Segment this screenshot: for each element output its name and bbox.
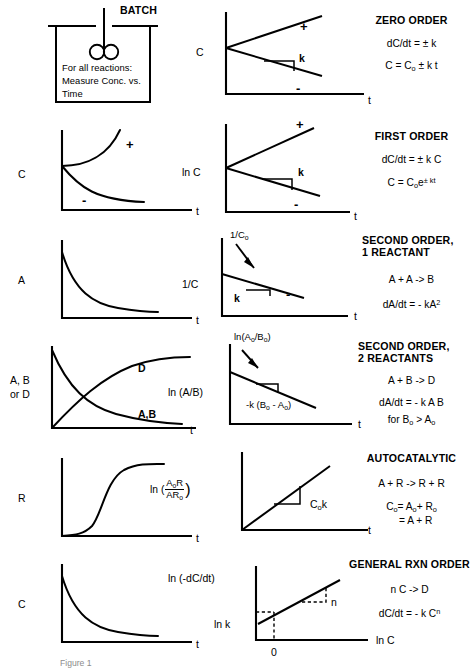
equation-2: dA/dt = - kA2 [352, 298, 471, 310]
reactor-instructions: For all reactions: Measure Conc. vs. Tim… [62, 62, 154, 101]
minus-sign-label: - [296, 82, 300, 95]
equation-3: for Bo > Ao [352, 414, 471, 427]
axis-label-x: t [354, 210, 357, 222]
equation-2: dA/dt = - k A B [352, 397, 471, 408]
slope-label-k: k [299, 52, 305, 64]
instruction-line-1: For all reactions: [62, 62, 154, 75]
axis-label-y-line-2: or D [10, 388, 30, 402]
equation-2: C = Co ± k t [352, 60, 471, 73]
axis-label-y-numerator: AoR [165, 478, 184, 489]
slope-label: -k (Bo - Ao) [246, 400, 291, 412]
text-second-order-1: SECOND ORDER, 1 REACTANT A + A -> B dA/d… [352, 234, 471, 310]
intercept-label: 1/Co [230, 230, 249, 242]
order-title: ZERO ORDER [352, 14, 471, 26]
minus-sign-label: - [82, 194, 86, 207]
kinetics-figure: BATCH For all reactions: Measure Conc. v… [0, 0, 471, 669]
equation-1: dC/dt = ± k [352, 38, 471, 49]
plus-sign-label: + [126, 138, 134, 151]
slope-label-k: k [298, 166, 304, 178]
row-second-order-1: A t 1/C 1/Co k - t SECOND ORDER, 1 REAC [0, 234, 471, 340]
axis-label-y: C [18, 598, 26, 610]
equation-2: Co= Ao+ Ro [352, 501, 471, 514]
slope-label-k: k [234, 292, 240, 304]
text-general-order: GENERAL RXN ORDER n C -> D dC/dt = - k C… [348, 558, 471, 619]
intercept-label: ln(Ao/Bo) [234, 332, 271, 344]
equation-2: C = Coe± kt [352, 176, 471, 190]
curve-label-d: D [138, 362, 146, 374]
plus-sign-label: + [296, 118, 304, 131]
order-title-line-2: 2 REACTANTS [352, 352, 471, 364]
plot-second-order-1-linear: 1/C 1/Co k - t [182, 232, 372, 336]
axis-label-x: ln C [376, 634, 395, 646]
batch-reactor-diagram: BATCH For all reactions: Measure Conc. v… [38, 6, 168, 108]
plus-sign-label: + [300, 20, 308, 33]
axis-label-y: ln (-dC/dt) [168, 572, 215, 584]
equation-1: A + A -> B [352, 274, 471, 285]
order-title-line-1: SECOND ORDER, [352, 340, 471, 352]
minus-sign-label: - [294, 198, 298, 211]
instruction-line-2: Measure Conc. vs. [62, 75, 154, 88]
text-zero-order: ZERO ORDER dC/dt = ± k C = Co ± k t [352, 14, 471, 73]
equation-1: dC/dt = ± k C [352, 154, 471, 165]
equation-3: = A + R [352, 515, 471, 526]
text-autocatalytic: AUTOCATALYTIC A + R -> R + R Co= Ao+ Ro … [352, 452, 471, 526]
axis-label-y: ln ( AoR ARo ) [150, 478, 190, 502]
axis-label-y: R [18, 492, 26, 504]
row-general-order: C t ln (-dC/dt) ln k 0 n ln C GENERAL RX… [0, 556, 471, 669]
text-first-order: FIRST ORDER dC/dt = ± k C C = Coe± kt [352, 130, 471, 190]
axis-label-y-line-1: A, B [10, 374, 30, 388]
axis-label-y-denominator: ARo [165, 489, 184, 501]
order-title: AUTOCATALYTIC [352, 452, 471, 464]
axis-label-x: t [368, 94, 371, 106]
origin-label: 0 [271, 646, 277, 658]
axis-label-y: ln (A/B) [168, 386, 203, 398]
row-second-order-2: A, B or D D A,B t ln (A/B) ln(Ao/Bo) [0, 340, 471, 450]
axis-label-x: t [354, 310, 357, 322]
intercept-label: ln k [214, 618, 230, 630]
equation-1: n C -> D [348, 584, 471, 595]
order-title: GENERAL RXN ORDER [348, 558, 471, 570]
batch-label: BATCH [120, 4, 157, 16]
axis-label-y: 1/C [182, 278, 198, 290]
plot-first-order-linear: ln C + - k t [182, 122, 378, 226]
axis-label-y: A [18, 274, 25, 286]
order-title-line-1: SECOND ORDER, [352, 234, 471, 246]
slope-label-n: n [331, 596, 337, 608]
instruction-line-3: Time [62, 88, 154, 101]
axis-label-y: C [196, 46, 204, 58]
equation-1: A + R -> R + R [352, 478, 471, 489]
figure-caption: Figure 1 [60, 658, 92, 668]
equation-2: dC/dt = - k Cn [348, 607, 471, 619]
minus-sign-label: - [286, 288, 290, 301]
curve-label-ab: A,B [138, 408, 156, 420]
axis-label-y-prefix: ln ( [150, 484, 164, 496]
order-title: FIRST ORDER [352, 130, 471, 142]
row-autocatalytic: R t ln ( AoR ARo ) [0, 450, 471, 556]
order-title-line-2: 1 REACTANT [352, 246, 471, 258]
axis-label-y-suffix: ) [185, 482, 190, 498]
row-zero-order: BATCH For all reactions: Measure Conc. v… [0, 0, 471, 122]
axis-label-y: ln C [182, 166, 201, 178]
row-first-order: C + - t ln C + - k t FIRST ORDER [0, 122, 471, 234]
axis-label-y: A, B or D [10, 374, 30, 401]
text-second-order-2: SECOND ORDER, 2 REACTANTS A + B -> D dA/… [352, 340, 471, 427]
slope-label: Cok [310, 498, 327, 513]
equation-1: A + B -> D [352, 375, 471, 386]
axis-label-y: C [18, 168, 26, 180]
plot-zero-order-linear: C + - k t [196, 8, 378, 108]
